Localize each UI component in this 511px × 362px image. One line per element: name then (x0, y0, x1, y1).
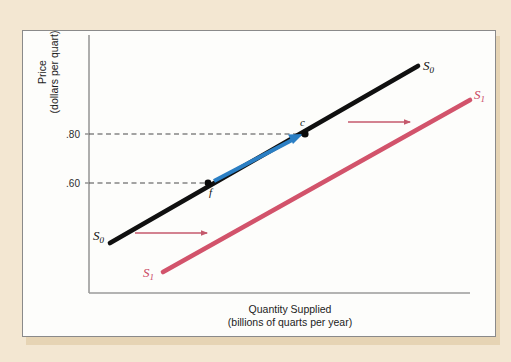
curve-label-s1-lower: S1 (143, 265, 154, 282)
y-tick-label-060: .60 (66, 178, 80, 189)
point-f-label: f (209, 186, 214, 198)
x-axis-title-line1: Quantity Supplied (150, 303, 430, 316)
figure-root: .80 .60 f c S0 S0 S1 S1 (0, 0, 511, 362)
curve-label-s1-lower-sub: 1 (150, 272, 155, 282)
point-c-label: c (300, 116, 305, 128)
curve-label-s0-lower: S0 (93, 228, 105, 245)
y-tick-label-080: .80 (66, 129, 80, 140)
movement-along-curve-arrow (214, 139, 294, 181)
curve-label-s1-upper: S1 (474, 87, 485, 104)
curve-label-s1-upper-sub: 1 (481, 94, 486, 104)
curve-label-s0-lower-sub: 0 (100, 235, 105, 245)
x-axis-title-line2: (billions of quarts per year) (150, 316, 430, 329)
point-c-dot (301, 130, 308, 137)
x-axis-title: Quantity Supplied (billions of quarts pe… (150, 303, 430, 328)
curve-label-s0-upper-sub: 0 (430, 65, 435, 75)
curve-label-s0-upper: S0 (423, 58, 435, 75)
